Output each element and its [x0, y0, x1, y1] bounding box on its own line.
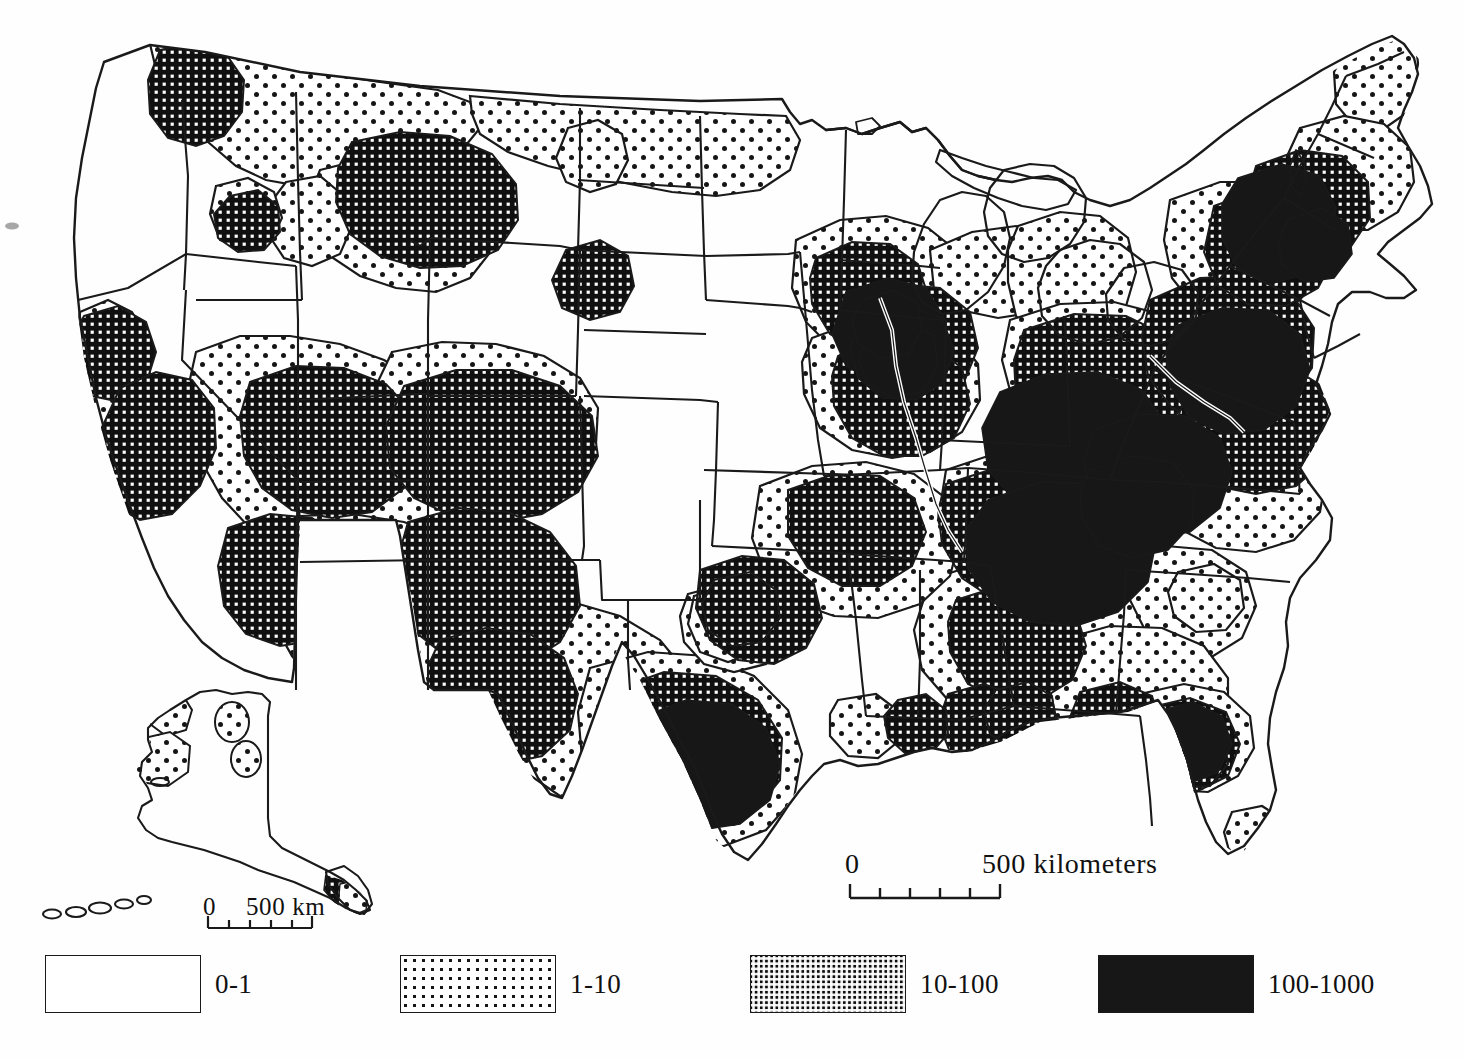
main-scalebar: 0	[845, 848, 860, 880]
legend-swatch-1-10	[400, 955, 556, 1013]
main-scalebar-graphic	[850, 884, 1000, 898]
main-scale-zero-label: 0	[845, 848, 860, 879]
legend-swatch-10-100	[750, 955, 906, 1013]
legend-label-0-1: 0-1	[215, 969, 252, 1000]
legend-label-1-10: 1-10	[570, 969, 621, 1000]
mainland-thematic-fills	[62, 30, 1420, 868]
legend-swatch-100-1000	[1098, 955, 1254, 1013]
alaska-outline	[43, 690, 372, 919]
alaska-scale-max: 500 km	[246, 893, 325, 921]
alaska-scale-zero-label: 0	[203, 893, 216, 920]
legend-label-10-100: 10-100	[920, 969, 999, 1000]
alaska-scalebar: 0	[203, 893, 216, 921]
scan-artifact-speck	[5, 223, 19, 230]
main-scale-max-label: 500 kilometers	[982, 848, 1158, 879]
legend-item-0: 0-1	[45, 955, 252, 1013]
legend-item-2: 10-100	[750, 955, 999, 1013]
map-graphics	[0, 0, 1465, 1058]
alaska-class-1-10	[126, 694, 261, 786]
alaska-scale-max-label: 500 km	[246, 893, 325, 920]
alaska-thematic-fills	[126, 694, 368, 916]
legend-item-1: 1-10	[400, 955, 621, 1013]
legend-item-3: 100-1000	[1098, 955, 1375, 1013]
main-scale-max: 500 kilometers	[982, 848, 1158, 880]
legend: 0-1 1-10 10-100 100-1000	[0, 948, 1465, 1028]
legend-label-100-1000: 100-1000	[1268, 969, 1375, 1000]
map-canvas: 0 500 kilometers 0 500 km 0-1 1-10 10-10…	[0, 0, 1465, 1058]
legend-swatch-0-1	[45, 955, 201, 1013]
